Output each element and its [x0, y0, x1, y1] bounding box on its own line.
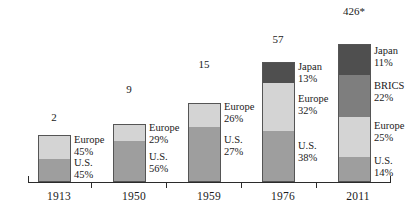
bar-1959 [188, 103, 221, 182]
x-axis-label-1976: 1976 [252, 191, 314, 203]
x-axis-label-1959: 1959 [178, 191, 240, 203]
segment-name: Europe [149, 122, 179, 134]
x-axis-tick-1 [91, 182, 92, 188]
segment-name: BRICS [374, 80, 404, 92]
segment-name: U.S. [74, 157, 93, 169]
bar-segment-label-1976-europe: Europe 32% [298, 93, 328, 116]
bar-segment-label-1959-us: U.S. 27% [224, 134, 243, 157]
x-axis-start-tick [28, 176, 29, 183]
bar-total-1976: 57 [252, 34, 304, 45]
segment-percent: 32% [298, 105, 328, 117]
segment-name: Europe [224, 101, 254, 113]
segment-percent: 56% [149, 163, 168, 175]
bar-segment-2011-japan [339, 45, 370, 75]
segment-name: Japan [374, 45, 398, 57]
x-axis-tick-2 [166, 182, 167, 188]
bar-segment-label-1959-europe: Europe 26% [224, 101, 254, 124]
bar-segment-label-2011-us: U.S. 14% [374, 155, 393, 178]
segment-name: U.S. [149, 151, 168, 163]
bar-1976 [262, 62, 295, 182]
bar-segment-1976-europe [263, 83, 294, 131]
bar-segment-label-1976-us: U.S. 38% [298, 140, 317, 163]
bar-total-1950: 9 [103, 84, 155, 95]
segment-name: U.S. [374, 155, 393, 167]
bar-segment-1950-europe [114, 125, 145, 141]
bar-segment-1913-us [39, 159, 70, 182]
segment-percent: 22% [374, 92, 404, 104]
bar-segment-1976-us [263, 131, 294, 182]
segment-name: Europe [374, 120, 404, 132]
segment-name: Europe [74, 134, 104, 146]
segment-percent: 29% [149, 134, 179, 146]
bar-total-1913: 2 [28, 112, 80, 123]
bar-segment-2011-us [339, 157, 370, 182]
bar-segment-label-1950-europe: Europe 29% [149, 122, 179, 145]
segment-name: Japan [298, 61, 322, 73]
bar-segment-1913-europe [39, 136, 70, 159]
bar-segment-label-2011-japan: Japan 11% [374, 45, 398, 68]
x-axis-label-1950: 1950 [103, 191, 165, 203]
x-axis-tick-4 [316, 182, 317, 188]
bar-segment-label-1950-us: U.S. 56% [149, 151, 168, 174]
bar-segment-2011-brics [339, 75, 370, 117]
bar-segment-1950-us [114, 141, 145, 182]
segment-percent: 38% [298, 152, 317, 164]
segment-percent: 25% [374, 132, 404, 144]
bar-total-1959: 15 [178, 59, 230, 70]
segment-name: Europe [298, 93, 328, 105]
bar-segment-2011-europe [339, 117, 370, 157]
bar-total-2011: 426* [326, 6, 382, 17]
segment-percent: 27% [224, 146, 243, 158]
segment-name: U.S. [224, 134, 243, 146]
bar-segment-label-2011-brics: BRICS 22% [374, 80, 404, 103]
segment-percent: 13% [298, 73, 322, 85]
bar-2011 [338, 44, 371, 182]
segment-percent: 45% [74, 169, 93, 181]
segment-percent: 26% [224, 113, 254, 125]
x-axis-end-tick [390, 176, 391, 183]
bar-1913 [38, 135, 71, 182]
segment-percent: 11% [374, 57, 398, 69]
x-axis-label-1913: 1913 [28, 191, 90, 203]
bar-segment-1976-japan [263, 63, 294, 83]
segment-percent: 45% [74, 146, 104, 158]
x-axis-tick-3 [241, 182, 242, 188]
bar-segment-1959-europe [189, 104, 220, 127]
bar-segment-label-1913-us: U.S. 45% [74, 157, 93, 180]
x-axis-label-2011: 2011 [327, 191, 389, 203]
bar-1950 [113, 124, 146, 182]
bar-segment-label-2011-europe: Europe 25% [374, 120, 404, 143]
x-axis-line [28, 182, 391, 183]
segment-name: U.S. [298, 140, 317, 152]
bar-segment-1959-us [189, 127, 220, 182]
stacked-bar-chart: 2 9 15 57 426* Europe 45% U.S. 45% Europ… [0, 0, 418, 216]
bar-segment-label-1976-japan: Japan 13% [298, 61, 322, 84]
bar-segment-label-1913-europe: Europe 45% [74, 134, 104, 157]
